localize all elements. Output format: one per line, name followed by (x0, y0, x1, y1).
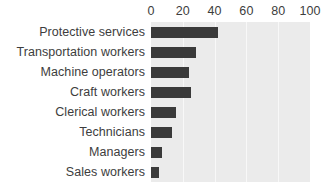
category-label: Machine operators (41, 65, 145, 79)
gridline (215, 22, 216, 182)
category-label: Transportation workers (17, 45, 145, 59)
bar (151, 167, 159, 178)
x-tick-label-80: 80 (271, 4, 285, 18)
bar (151, 147, 162, 158)
bar (151, 27, 218, 38)
x-tick-label-100: 100 (299, 4, 320, 18)
bar (151, 67, 189, 78)
bar-chart: 020406080100 Protective servicesTranspor… (0, 0, 335, 186)
category-label: Technicians (79, 125, 145, 139)
plot-area (151, 22, 310, 182)
x-axis: 020406080100 (0, 4, 335, 22)
y-axis-category-labels: Protective servicesTransportation worker… (0, 22, 148, 182)
x-tick-label-0: 0 (147, 4, 154, 18)
category-label: Craft workers (70, 85, 145, 99)
category-label: Sales workers (66, 165, 145, 179)
x-tick-label-20: 20 (176, 4, 190, 18)
gridline (246, 22, 247, 182)
x-tick-label-60: 60 (239, 4, 253, 18)
category-label: Managers (89, 145, 145, 159)
bar (151, 47, 196, 58)
bar (151, 107, 176, 118)
category-label: Clerical workers (55, 105, 145, 119)
gridline (278, 22, 279, 182)
bar (151, 87, 191, 98)
category-label: Protective services (39, 25, 145, 39)
x-tick-label-40: 40 (208, 4, 222, 18)
bar (151, 127, 172, 138)
